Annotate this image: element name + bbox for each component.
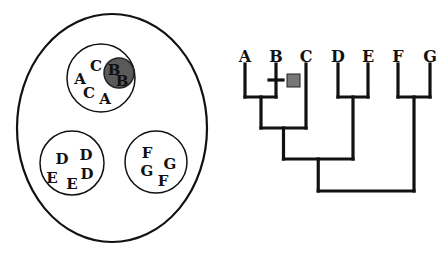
taxon-letter: C xyxy=(90,57,102,75)
taxon-letter: F xyxy=(158,172,169,190)
group-fg: FGGF xyxy=(125,131,187,193)
taxon-letter: D xyxy=(55,150,68,168)
phylogeny-figure: CACABBDDEEDFGGF ABCDEFG xyxy=(0,0,446,253)
group-de: DDEED xyxy=(40,131,104,195)
taxon-letter: E xyxy=(66,175,77,193)
character-state-box xyxy=(287,74,300,87)
cladogram: ABCDEFG xyxy=(238,47,437,191)
taxon-letter: E xyxy=(46,169,57,187)
taxon-letter: A xyxy=(98,90,111,108)
group-circle xyxy=(125,131,187,193)
outer-ellipse xyxy=(17,14,207,242)
taxon-letter: G xyxy=(141,162,154,180)
taxon-letter: C xyxy=(83,84,95,102)
taxon-letter: D xyxy=(80,165,93,183)
taxon-letter: G xyxy=(164,155,177,173)
taxon-letter: F xyxy=(142,144,153,162)
venn-diagram: CACABBDDEEDFGGF xyxy=(17,14,207,242)
group-abc: CACABB xyxy=(67,44,135,112)
highlight-letter: B xyxy=(116,72,129,90)
taxon-letter: D xyxy=(79,146,92,164)
